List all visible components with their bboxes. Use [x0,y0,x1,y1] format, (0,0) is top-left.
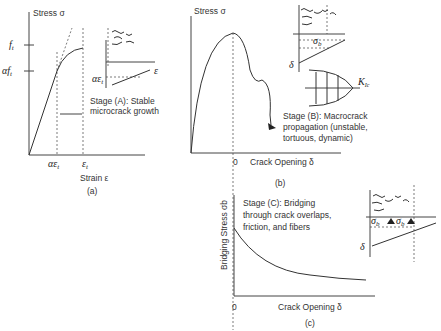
inset-strain-label: αεt [92,73,104,86]
inset-delta: δ [289,59,294,70]
stage-c-text-2: through crack overlaps, [243,210,331,220]
y-axis-label: Bridging Stress σb [219,200,229,270]
x-tick-eps: εt [82,158,89,171]
inset-sigma-b: σb [313,35,322,48]
caption-b: (b) [275,178,286,188]
stage-b-text-3: tortuous, dynamic) [283,133,353,143]
stage-a-text-2: microcrack growth [90,106,159,116]
inset-delta: δ [360,241,365,252]
crack-stages-diagram: Stress σ ft αft αεt ε Stage (A): Stable … [0,0,441,331]
stage-a-text-1: Stage (A): Stable [90,96,155,106]
diagram-canvas: Stress σ ft αft αεt ε Stage (A): Stable … [0,0,441,331]
y-axis-label: Stress σ [194,6,226,16]
aft-label: αft [2,65,13,78]
kic-label: KIc [357,76,370,88]
y-axis-label: Stress σ [33,8,65,18]
x-axis-label: Crack Opening δ [278,302,342,312]
ft-label: ft [9,39,15,52]
stage-b-text-2: propagation (unstable, [283,122,368,132]
x-axis-label: Crack Opening δ [250,157,314,167]
caption-a: (a) [87,186,98,196]
inset-eps: ε [154,65,158,76]
stage-b-text-1: Stage (B): Macrocrack [283,111,368,121]
caption-c: (c) [305,318,315,328]
x-tick-aeps: αεt [48,158,60,171]
panel-b: Stress σ 0 Crack Opening δ (b) σb δ KIc … [191,5,370,330]
x-zero: 0 [232,302,237,312]
x-axis-label: Strain ε [80,173,109,183]
stage-c-text-1: Stage (C): Bridging [243,198,316,208]
x-zero: 0 [233,157,238,167]
panel-a: Stress σ ft αft αεt ε Stage (A): Stable … [2,8,159,196]
stage-c-text-3: friction, and fibers [243,222,310,232]
panel-c: Bridging Stress σb 0 Crack Opening δ (c)… [219,185,436,328]
